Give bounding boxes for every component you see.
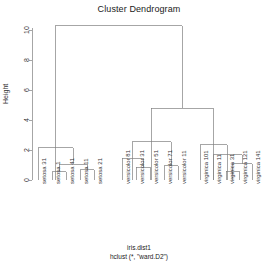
dendrogram-plot: Cluster Dendrogram Height 0246810 iris.d… (0, 0, 278, 270)
x-axis-leaf-label: versicolor 71 (167, 150, 173, 184)
x-axis-leaf-label: virginica 141 (255, 150, 261, 184)
x-axis-leaf-label: virginica 121 (242, 150, 248, 184)
x-axis-leaf-label: versicolor 11 (181, 150, 187, 184)
x-axis-leaf-label: versicolor 51 (153, 150, 159, 184)
y-axis-tick-label: 0 (23, 178, 30, 182)
caption-dataset: iris.dist1 (0, 244, 278, 251)
x-axis-leaf-label: setosa 1 (55, 161, 61, 184)
x-axis-leaf-label: virginica 101 (203, 150, 209, 184)
y-axis-tick-label: 2 (23, 148, 30, 152)
x-axis-leaf-label: setosa 11 (83, 158, 89, 184)
x-axis-leaf-label: setosa 41 (69, 158, 75, 184)
x-axis-leaf-label: virginica 31 (229, 154, 235, 184)
x-axis-leaf-label: setosa 21 (97, 158, 103, 184)
dendrogram-canvas: 0246810 (0, 0, 278, 270)
y-axis-tick-label: 8 (23, 58, 30, 62)
x-axis-leaf-label: versicolor 81 (125, 150, 131, 184)
x-axis-leaf-label: virginica 11 (216, 154, 222, 184)
x-axis-leaf-label: versicolor 31 (139, 150, 145, 184)
y-axis-tick-label: 6 (23, 88, 30, 92)
x-axis-leaf-label: setosa 31 (41, 158, 47, 184)
caption-method: hclust (*, "ward.D2") (0, 253, 278, 260)
y-axis-tick-label: 10 (23, 26, 30, 34)
y-axis-tick-label: 4 (23, 118, 30, 122)
